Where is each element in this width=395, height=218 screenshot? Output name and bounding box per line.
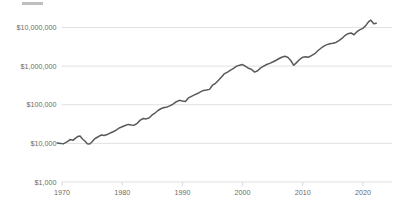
- y-axis-tick-labels: $10,000,000$1,000,000$100,000$10,000$1,0…: [17, 23, 57, 187]
- y-axis-tick-label: $10,000,000: [17, 23, 57, 32]
- x-axis-tick-label: 1970: [54, 188, 70, 197]
- x-axis-tick-label: 2000: [235, 188, 251, 197]
- x-axis-tick-labels: 197019801990200020102020: [54, 188, 371, 197]
- gridlines-group: [62, 28, 393, 183]
- y-axis-tick-label: $1,000: [35, 178, 57, 187]
- x-axis-tickmarks: [62, 182, 363, 186]
- chart-container: $10,000,000$1,000,000$100,000$10,000$1,0…: [0, 0, 395, 218]
- data-series-group: [57, 20, 376, 144]
- x-axis-tick-label: 2020: [355, 188, 371, 197]
- x-axis-tick-label: 1990: [174, 188, 190, 197]
- series-line-value: [57, 20, 376, 144]
- x-axis-tick-label: 2010: [295, 188, 311, 197]
- x-axis-tick-label: 1980: [114, 188, 130, 197]
- y-axis-tick-label: $10,000: [31, 139, 57, 148]
- y-axis-tick-label: $100,000: [27, 100, 57, 109]
- line-chart-plot: $10,000,000$1,000,000$100,000$10,000$1,0…: [0, 0, 395, 218]
- y-axis-tick-label: $1,000,000: [21, 62, 57, 71]
